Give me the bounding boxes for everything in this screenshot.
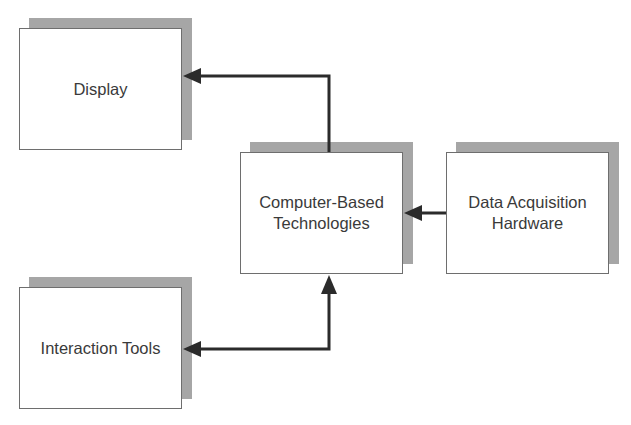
node-box: Display [19, 28, 182, 150]
edge-interaction-computer [183, 275, 337, 357]
arrowhead-icon [321, 275, 337, 294]
node-interaction-tools: Interaction Tools [19, 287, 182, 409]
node-label-data-acquisition-hardware: Data Acquisition Hardware [468, 192, 586, 234]
node-box: Interaction Tools [19, 287, 182, 409]
node-label-interaction-tools: Interaction Tools [41, 338, 161, 359]
node-box: Computer-Based Technologies [240, 152, 403, 274]
node-box: Data Acquisition Hardware [446, 152, 609, 274]
node-data-acquisition-hardware: Data Acquisition Hardware [446, 152, 609, 274]
edge-computer-to-display [183, 68, 329, 152]
node-label-display: Display [73, 79, 127, 100]
node-display: Display [19, 28, 182, 150]
node-label-computer-based-technologies: Computer-Based Technologies [259, 192, 384, 234]
node-computer-based-technologies: Computer-Based Technologies [240, 152, 403, 274]
